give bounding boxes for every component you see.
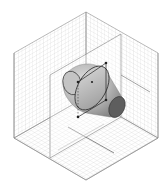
handle-bottom-right[interactable]: [105, 99, 108, 102]
handle-center[interactable]: [91, 81, 93, 83]
handle-top-left[interactable]: [77, 81, 80, 84]
handle-top-right[interactable]: [105, 62, 108, 65]
viewport-3d[interactable]: [0, 0, 168, 185]
handle-bottom-left[interactable]: [77, 116, 80, 119]
